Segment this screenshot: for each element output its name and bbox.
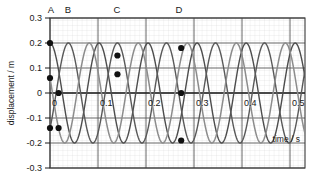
x-tick-label: 0 <box>52 98 57 108</box>
data-point-marker <box>178 45 184 51</box>
displacement-time-graph: 0.3 0.2 0.1 0 -0.1 -0.2 -0.3 0 0.1 0.2 0… <box>0 0 313 182</box>
annotation-A: A <box>48 4 55 15</box>
annotation-C: C <box>114 4 121 15</box>
data-point-marker <box>47 40 53 46</box>
data-point-marker <box>47 75 53 81</box>
data-point-marker <box>114 71 120 77</box>
annotation-B: B <box>65 4 71 15</box>
y-tick-label: -0.2 <box>26 138 42 148</box>
data-point-marker <box>114 52 120 58</box>
y-axis-title: displacement / m <box>6 61 16 125</box>
y-tick-label: -0.1 <box>26 113 42 123</box>
y-tick-label: 0 <box>37 88 42 98</box>
x-tick-label: 0.5 <box>292 98 305 108</box>
data-point-marker <box>55 90 61 96</box>
y-tick-labels: 0.3 0.2 0.1 0 -0.1 -0.2 -0.3 <box>26 13 42 173</box>
x-tick-label: 0.2 <box>148 98 161 108</box>
y-tick-label: 0.2 <box>29 38 42 48</box>
x-tick-label: 0.1 <box>100 98 113 108</box>
top-annotations: A B C D <box>48 4 183 15</box>
x-tick-label: 0.4 <box>244 98 257 108</box>
data-point-marker <box>55 125 61 131</box>
data-point-marker <box>178 90 184 96</box>
x-tick-label: 0.3 <box>196 98 209 108</box>
y-tick-label: 0.1 <box>29 63 42 73</box>
data-point-marker <box>47 125 53 131</box>
plot-canvas: 0.3 0.2 0.1 0 -0.1 -0.2 -0.3 0 0.1 0.2 0… <box>0 0 313 182</box>
y-tick-label: -0.3 <box>26 163 42 173</box>
annotation-D: D <box>176 4 183 15</box>
x-axis-title: time / s <box>273 134 300 144</box>
data-point-marker <box>178 137 184 143</box>
y-tick-label: 0.3 <box>29 13 42 23</box>
